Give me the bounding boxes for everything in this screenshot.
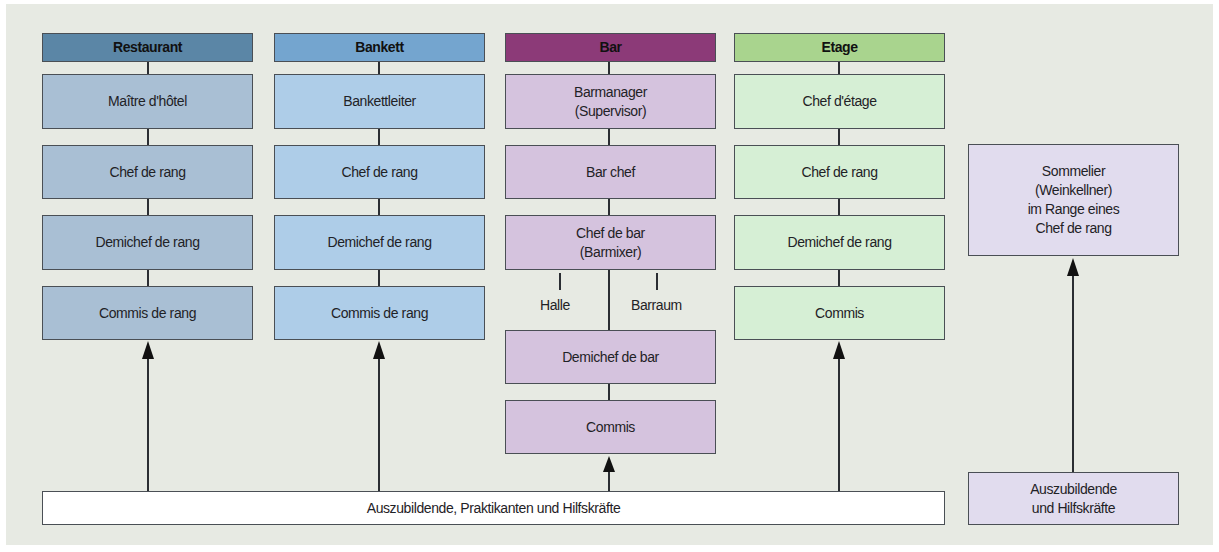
arrow-up-icon <box>142 341 154 359</box>
arrow-up-icon <box>603 456 615 472</box>
etage-role-commis: Commis <box>734 286 945 340</box>
bankett-role-leiter: Bankettleiter <box>274 74 485 129</box>
role-line: (Supervisor) <box>575 102 646 121</box>
sommelier-line: Chef de rang <box>1035 219 1111 238</box>
connector <box>838 270 840 286</box>
connector <box>147 356 149 491</box>
branch-label-barraum: Barraum <box>631 297 682 313</box>
connector <box>608 129 610 145</box>
connector <box>838 199 840 215</box>
role-line: Barmanager <box>574 83 647 102</box>
connector <box>608 383 610 400</box>
connector <box>378 199 380 215</box>
bar-role-commis: Commis <box>505 400 716 454</box>
etage-role-chef-etage: Chef d'étage <box>734 74 945 129</box>
bar-role-demichef: Demichef de bar <box>505 330 716 384</box>
sommelier-trainees-box: Auszubildende und Hilfskräfte <box>968 472 1179 525</box>
connector <box>608 62 610 74</box>
connector <box>608 199 610 215</box>
bankett-role-chef-de-rang: Chef de rang <box>274 145 485 199</box>
connector <box>147 270 149 286</box>
sommelier-line: im Range eines <box>1028 200 1120 219</box>
arrow-up-icon <box>373 341 385 359</box>
trainee-line: und Hilfskräfte <box>1032 499 1115 518</box>
restaurant-role-chef-de-rang: Chef de rang <box>42 145 253 199</box>
sommelier-line: (Weinkellner) <box>1035 181 1112 200</box>
connector <box>147 62 149 74</box>
arrow-up-icon <box>1067 258 1079 276</box>
connector <box>378 356 380 491</box>
connector <box>378 270 380 286</box>
bankett-role-commis: Commis de rang <box>274 286 485 340</box>
trainee-line: Auszubildende <box>1030 480 1117 499</box>
role-line: Chef de bar <box>576 224 645 243</box>
bar-role-barmanager: Barmanager (Supervisor) <box>505 74 716 129</box>
restaurant-role-maitre: Maître d'hôtel <box>42 74 253 129</box>
role-line: (Barmixer) <box>580 243 641 262</box>
etage-header: Etage <box>734 33 945 62</box>
restaurant-header: Restaurant <box>42 33 253 62</box>
connector <box>1072 274 1074 472</box>
connector <box>147 129 149 145</box>
connector <box>378 62 380 74</box>
etage-role-demichef: Demichef de rang <box>734 215 945 270</box>
sommelier-box: Sommelier (Weinkellner) im Range eines C… <box>968 144 1179 256</box>
connector <box>608 270 610 330</box>
connector <box>147 199 149 215</box>
connector <box>838 62 840 74</box>
trainees-bar: Auszubildende, Praktikanten und Hilfskrä… <box>42 491 945 525</box>
connector <box>378 129 380 145</box>
connector <box>838 356 840 491</box>
branch-tick <box>559 273 561 290</box>
etage-role-chef-de-rang: Chef de rang <box>734 145 945 199</box>
connector <box>608 470 610 491</box>
bar-role-bar-chef: Bar chef <box>505 145 716 199</box>
restaurant-role-demichef: Demichef de rang <box>42 215 253 270</box>
bankett-role-demichef: Demichef de rang <box>274 215 485 270</box>
arrow-up-icon <box>833 341 845 359</box>
bar-header: Bar <box>505 33 716 62</box>
bar-role-chef-de-bar: Chef de bar (Barmixer) <box>505 215 716 270</box>
restaurant-role-commis: Commis de rang <box>42 286 253 340</box>
bankett-header: Bankett <box>274 33 485 62</box>
branch-label-halle: Halle <box>540 297 570 313</box>
connector <box>838 129 840 145</box>
branch-tick <box>656 273 658 290</box>
sommelier-line: Sommelier <box>1042 162 1105 181</box>
